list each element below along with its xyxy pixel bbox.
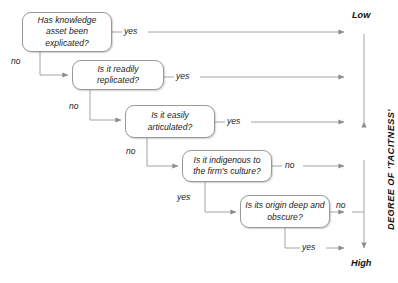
edge-n3-down — [147, 138, 178, 166]
edge-label-n5-down: yes — [302, 242, 315, 252]
edge-n2-down — [90, 90, 121, 120]
edge-label-n1-right: yes — [124, 26, 137, 36]
decision-node-3[interactable]: Is it easily articulated? — [125, 105, 215, 138]
edge-label-n3-right: yes — [227, 116, 240, 126]
decision-node-3-label: Is it easily articulated? — [130, 110, 210, 133]
decision-node-2[interactable]: Is it readily replicated? — [72, 60, 164, 90]
edge-n1-down — [40, 52, 68, 75]
decision-node-2-label: Is it readily replicated? — [77, 64, 159, 87]
decision-node-4-label: Is it indigenous to the firm's culture? — [187, 155, 267, 178]
edge-label-n3-down: no — [126, 146, 136, 156]
axis-label-low: Low — [352, 10, 370, 20]
decision-node-5[interactable]: Is its origin deep and obscure? — [240, 195, 330, 228]
edge-label-n4-right: no — [285, 160, 295, 170]
decision-node-4[interactable]: Is it indigenous to the firm's culture? — [182, 150, 272, 182]
axis-title-tacitness: DEGREE OF 'TACITNESS' — [386, 109, 396, 230]
decision-node-1[interactable]: Has knowledge asset been explicated? — [22, 12, 112, 52]
edge-label-n2-right: yes — [176, 71, 189, 81]
edge-n5-down-stub — [285, 228, 300, 248]
edge-label-n2-down: no — [69, 101, 79, 111]
flowchart-canvas: Has knowledge asset been explicated? Is … — [0, 0, 398, 283]
edge-label-n4-down: yes — [177, 192, 190, 202]
edge-label-n1-down: no — [11, 56, 21, 66]
decision-node-5-label: Is its origin deep and obscure? — [245, 200, 325, 223]
decision-node-1-label: Has knowledge asset been explicated? — [27, 15, 107, 49]
edge-label-n5-right: no — [336, 200, 346, 210]
edge-n4-down — [205, 182, 236, 212]
axis-label-high: High — [351, 258, 371, 268]
